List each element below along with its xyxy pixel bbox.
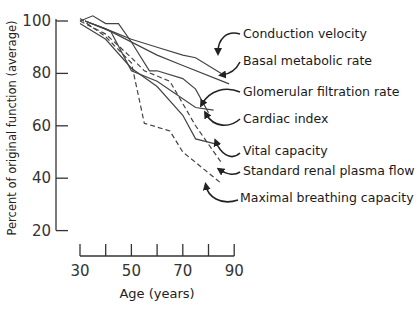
x-axis: 30507090 (70, 244, 243, 280)
y-tick-label: 40 (32, 169, 51, 187)
x-tick-label: 90 (225, 262, 244, 280)
label-arrow-icon (218, 33, 240, 52)
series-glomerular-filtration-rate (80, 16, 209, 113)
aging-function-chart: 20406080100 30507090 Conduction velocity… (0, 0, 420, 312)
label-arrow-icon (206, 186, 238, 202)
series-label: Glomerular filtration rate (243, 84, 400, 99)
series-label: Standard renal plasma flow (243, 163, 415, 178)
x-axis-title: Age (years) (119, 286, 194, 301)
y-tick-label: 60 (32, 117, 51, 135)
label-arrow-icon (216, 142, 240, 157)
label-arrow-icon (202, 89, 240, 104)
label-arrow-icon (206, 114, 240, 125)
series-label: Basal metabolic rate (243, 53, 372, 68)
x-tick-label: 30 (70, 262, 89, 280)
series-cardiac-index (85, 21, 214, 110)
y-axis-title: Percent of original function (average) (5, 21, 19, 236)
series-labels: Conduction velocityBasal metabolic rateG… (202, 26, 415, 205)
series-label: Vital capacity (243, 143, 328, 158)
data-series (80, 16, 229, 184)
series-maximal-breathing-capacity (80, 18, 221, 183)
y-tick-label: 100 (22, 12, 51, 30)
y-tick-label: 20 (32, 222, 51, 240)
series-label: Cardiac index (243, 111, 328, 126)
x-tick-label: 70 (173, 262, 192, 280)
x-tick-label: 50 (122, 262, 141, 280)
label-arrow-icon (220, 170, 240, 174)
y-axis: 20406080100 (22, 12, 68, 240)
series-standard-renal-plasma-flow (80, 21, 221, 163)
series-label: Maximal breathing capacity (240, 190, 414, 205)
series-label: Conduction velocity (243, 26, 367, 41)
label-arrow-icon (222, 62, 240, 75)
y-tick-label: 80 (32, 64, 51, 82)
